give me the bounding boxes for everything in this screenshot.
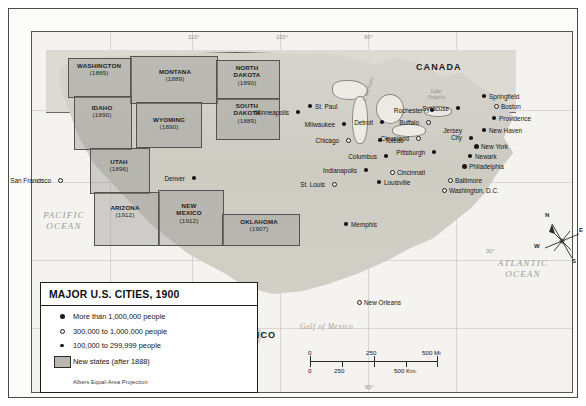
city-label-buffalo: Buffalo [399,119,419,126]
city-dot-boston [494,104,499,109]
city-dot-springfield [482,94,486,98]
city-dot-newark [468,154,472,158]
city-dot-milwaukee [342,122,346,126]
legend-symbol-over-1m [51,314,73,319]
state-label-montana-year: (1889) [142,75,208,82]
scale-label-mi-250: 250 [366,349,376,356]
state-label-utah: UTAH (1896) [94,158,144,173]
city-dot-minneapolis [296,110,300,114]
legend-projection-note: Albers Equal-Area Projection [41,378,257,392]
city-label-providence: Providence [499,115,531,122]
scale-tick-mid [374,356,375,367]
coord-bottom-90: 90° [365,384,374,390]
map-legend: MAJOR U.S. CITIES, 1900 More than 1,000,… [40,282,258,393]
compass-label-west: W [534,243,540,249]
city-dot-providence [492,116,496,120]
state-label-north-dakota-name2: DAKOTA [234,71,261,78]
state-area-arizona [94,192,160,246]
legend-symbol-100k-299k [51,344,73,348]
legend-label-new-states: New states (after 1888) [73,357,150,366]
city-label-philadelphia: Philadelphia [469,163,504,170]
city-label-springfield: Springfield [489,93,519,100]
legend-label-300k-1m: 300,000 to 1,000,000 people [73,327,167,336]
state-label-utah-name: UTAH [110,158,127,165]
state-label-washington-name: WASHINGTON [77,62,121,69]
city-dot-memphis [344,222,348,226]
state-label-utah-year: (1896) [94,165,144,172]
legend-item-300k-1m: 300,000 to 1,000,000 people [51,327,249,336]
map-figure: 110° 100° 90° 90° 30° 40° CANADA MEXICO … [0,0,586,406]
map-neatline-outer: 110° 100° 90° 90° 30° 40° CANADA MEXICO … [8,8,578,398]
state-label-new-mexico-year: (1912) [160,217,218,224]
city-dot-new-york [474,144,479,149]
state-label-north-dakota-name1: NORTH [236,64,259,71]
lake-label-ontario-line1: Lake [431,88,442,94]
legend-title: MAJOR U.S. CITIES, 1900 [41,283,257,306]
state-label-idaho-year: (1890) [76,111,128,118]
city-dot-buffalo [426,120,431,125]
city-label-new-york: New York [481,143,508,150]
city-dot-cleveland [416,136,421,141]
state-label-idaho-name: IDAHO [92,104,113,111]
city-label-indianapolis: Indianapolis [323,167,357,174]
legend-items: More than 1,000,000 people 300,000 to 1,… [41,306,257,378]
city-dot-indianapolis [364,168,368,172]
city-dot-detroit [380,120,384,124]
lake-label-ontario-line2: Ontario [427,94,444,100]
city-dot-chicago [346,138,351,143]
city-label-milwaukee: Milwaukee [305,121,335,128]
city-label-syracuse: Syracuse [422,105,449,112]
legend-symbol-300k-1m [51,329,73,334]
scale-tick-0 [310,356,311,367]
state-label-wyoming: WYOMING (1890) [138,116,200,131]
compass-label-east: E [579,227,583,233]
city-label-pittsburgh: Pittsburgh [396,149,425,156]
city-label-memphis: Memphis [351,221,377,228]
state-label-arizona-name: ARIZONA [110,204,139,211]
city-dot-philadelphia [462,164,467,169]
water-label-gulf-of-mexico: Gulf of Mexico [300,322,353,331]
state-label-south-dakota-year: (1889) [218,117,276,124]
city-dot-san-francisco [58,178,63,183]
legend-item-over-1m: More than 1,000,000 people [51,312,249,321]
state-label-north-dakota-year: (1890) [218,79,276,86]
coord-right-30: 30° [486,248,495,254]
scale-label-mi-500: 500 Mi [422,349,441,356]
state-label-north-dakota: NORTH DAKOTA (1890) [218,64,276,86]
city-label-cleveland: Cleveland [381,135,409,142]
scale-tick-end [437,356,438,367]
city-label-denver: Denver [164,175,185,182]
scale-label-km-500: 500 Km. [394,367,417,374]
legend-item-new-states: New states (after 1888) [51,356,249,368]
scale-label-mi-0: 0 [308,349,311,356]
state-label-montana-name: MONTANA [159,68,191,75]
city-label-jersey-city-line2: City [451,134,462,141]
scale-label-km-0: 0 [308,367,311,374]
state-label-oklahoma-name: OKLAHOMA [240,218,278,225]
state-label-oklahoma-year: (1907) [224,225,294,232]
city-label-baltimore: Baltimore [455,177,482,184]
city-label-boston: Boston [501,103,521,110]
compass-rose-svg [532,210,586,272]
state-label-new-mexico-name2: MEXICO [176,209,201,216]
lake-label-ontario: Lake Ontario [416,88,456,101]
state-label-wyoming-name: WYOMING [153,116,185,123]
city-dot-denver [192,176,196,180]
city-dot-st-paul [308,104,312,108]
country-label-canada: CANADA [416,62,462,72]
legend-symbol-new-states [51,356,73,368]
city-dot-louisville [377,180,381,184]
city-dot-cincinnati [390,170,395,175]
state-label-washington: WASHINGTON (1889) [66,62,132,77]
city-label-jersey-city-line1: Jersey [443,127,462,134]
state-label-new-mexico-name1: NEW [182,202,197,209]
city-label-cincinnati: Cincinnati [397,169,425,176]
scale-label-km-250: 250 [334,367,344,374]
city-dot-new-haven [482,128,486,132]
state-label-oklahoma: OKLAHOMA (1907) [224,218,294,233]
city-label-new-haven: New Haven [489,127,522,134]
state-label-arizona: ARIZONA (1912) [96,204,154,219]
coord-top-100: 100° [276,34,288,40]
city-label-newark: Newark [475,153,497,160]
coord-top-110: 110° [188,34,200,40]
